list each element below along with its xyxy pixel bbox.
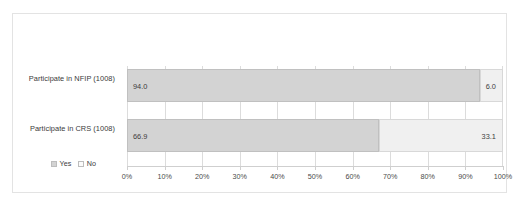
legend-item-no[interactable]: No: [78, 159, 96, 168]
bar-value-crs-yes: 66.9: [133, 131, 147, 140]
x-tick-mark-50: [315, 166, 316, 170]
bar-segment-nfip-no[interactable]: 6.0: [480, 69, 503, 102]
legend-swatch-no-icon: [78, 161, 84, 167]
x-tick-mark-40: [277, 166, 278, 170]
x-tick-mark-10: [165, 166, 166, 170]
x-tick-label-100: 100%: [494, 172, 512, 181]
x-tick-mark-80: [428, 166, 429, 170]
legend: Yes No: [51, 159, 96, 168]
x-tick-mark-30: [240, 166, 241, 170]
x-tick-label-0: 0%: [122, 172, 132, 181]
category-label-nfip: Participate in NFIP (1008): [29, 74, 115, 83]
x-tick-mark-20: [202, 166, 203, 170]
x-tick-label-30: 30%: [233, 172, 247, 181]
x-tick-label-10: 10%: [157, 172, 171, 181]
x-tick-label-20: 20%: [195, 172, 209, 181]
bar-row-nfip: 94.0 6.0: [127, 69, 503, 102]
legend-label-no: No: [87, 159, 96, 168]
bar-value-nfip-no: 6.0: [486, 81, 496, 90]
x-tick-label-70: 70%: [383, 172, 397, 181]
legend-swatch-yes-icon: [51, 161, 57, 167]
x-tick-label-80: 80%: [421, 172, 435, 181]
bar-row-crs: 66.9 33.1: [127, 119, 503, 152]
category-axis: Participate in NFIP (1008) Participate i…: [21, 53, 115, 153]
category-label-crs: Participate in CRS (1008): [30, 124, 115, 133]
x-tick-mark-70: [390, 166, 391, 170]
plot-area: 94.0 6.0 66.9 33.1: [127, 66, 503, 166]
bar-segment-nfip-yes[interactable]: 94.0: [127, 69, 480, 102]
x-axis-tick-labels: 0% 10% 20% 30% 40% 50% 60% 70% 80% 90% 1…: [127, 172, 504, 184]
bar-value-nfip-yes: 94.0: [133, 81, 147, 90]
x-tick-mark-100: [503, 166, 504, 170]
x-tick-label-60: 60%: [345, 172, 359, 181]
legend-label-yes: Yes: [60, 159, 72, 168]
x-tick-mark-0: [127, 166, 128, 170]
x-tick-label-50: 50%: [308, 172, 322, 181]
bar-segment-crs-yes[interactable]: 66.9: [127, 119, 379, 152]
chart-frame: Participate in NFIP (1008) Participate i…: [12, 13, 507, 193]
bar-segment-crs-no[interactable]: 33.1: [379, 119, 503, 152]
x-tick-mark-60: [353, 166, 354, 170]
x-tick-label-90: 90%: [458, 172, 472, 181]
x-tick-label-40: 40%: [270, 172, 284, 181]
x-tick-mark-90: [465, 166, 466, 170]
legend-item-yes[interactable]: Yes: [51, 159, 71, 168]
bar-value-crs-no: 33.1: [482, 131, 496, 140]
